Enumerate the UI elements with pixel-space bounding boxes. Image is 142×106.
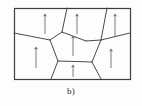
grain-structure-figure: b) bbox=[0, 0, 142, 106]
diagram-frame bbox=[15, 9, 131, 80]
figure-caption: b) bbox=[0, 86, 142, 96]
